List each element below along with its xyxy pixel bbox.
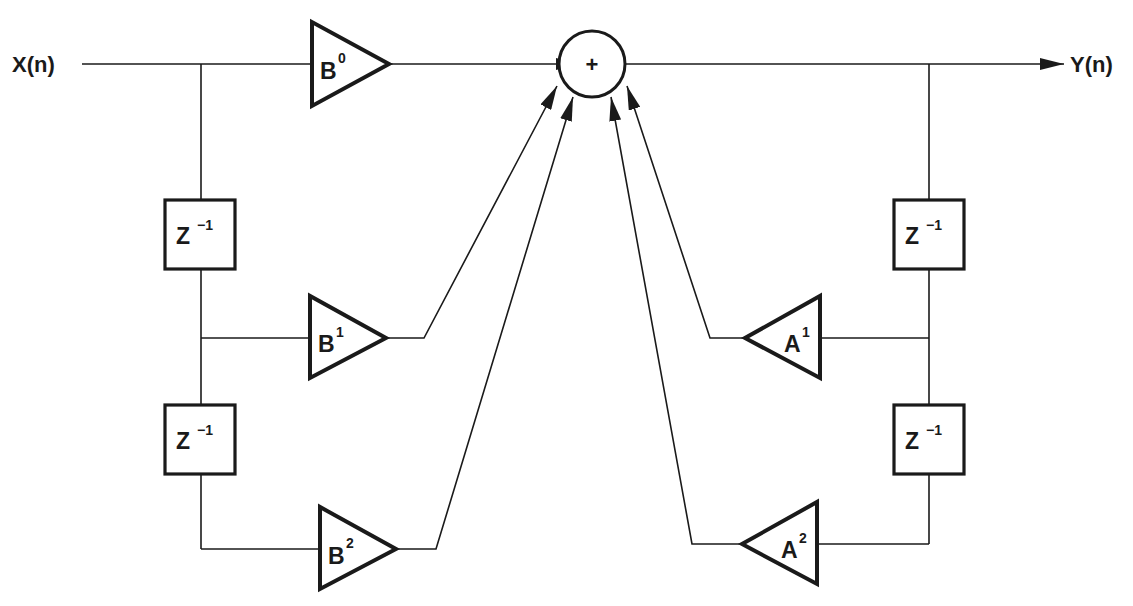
svg-text:A: A xyxy=(784,331,801,357)
gain-a2: A 2 xyxy=(742,502,817,584)
filter-diagram: X(n) B 0 B 1 B 2 Z −1 Z −1 xyxy=(0,0,1133,606)
gain-b0: B 0 xyxy=(312,22,389,106)
input-label: X(n) xyxy=(12,52,55,77)
a1-to-summer-wire xyxy=(627,86,745,338)
svg-text:1: 1 xyxy=(336,324,344,340)
svg-text:B: B xyxy=(318,331,335,357)
svg-text:Z: Z xyxy=(176,223,190,249)
svg-text:−1: −1 xyxy=(197,422,213,438)
svg-text:−1: −1 xyxy=(926,422,942,438)
svg-text:−1: −1 xyxy=(197,217,213,233)
svg-text:+: + xyxy=(586,52,599,77)
b1-to-summer-wire xyxy=(386,86,557,338)
gain-b1: B 1 xyxy=(310,296,386,378)
delay-block-output-2: Z −1 xyxy=(894,405,964,474)
gain-b2: B 2 xyxy=(320,507,396,589)
svg-text:A: A xyxy=(781,537,798,563)
svg-text:Z: Z xyxy=(905,223,919,249)
b2-to-summer-wire xyxy=(396,97,573,549)
svg-text:2: 2 xyxy=(799,530,807,546)
svg-text:−1: −1 xyxy=(926,217,942,233)
delay-block-output-1: Z −1 xyxy=(894,200,964,269)
a2-to-summer-wire xyxy=(611,97,742,544)
svg-text:0: 0 xyxy=(338,50,346,66)
output-label: Y(n) xyxy=(1070,52,1113,77)
delay-block-input-1: Z −1 xyxy=(165,200,235,269)
summing-node: + xyxy=(559,31,625,97)
delay-block-input-2: Z −1 xyxy=(165,405,235,474)
gain-a1: A 1 xyxy=(745,296,820,378)
svg-text:B: B xyxy=(328,543,345,569)
svg-text:Z: Z xyxy=(905,428,919,454)
svg-text:2: 2 xyxy=(346,535,354,551)
svg-text:Z: Z xyxy=(176,428,190,454)
svg-text:B: B xyxy=(320,58,337,84)
svg-text:1: 1 xyxy=(802,324,810,340)
